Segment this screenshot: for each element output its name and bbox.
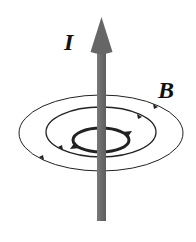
- magnetic-field-label: B: [158, 78, 174, 102]
- diagram-canvas: I B: [0, 0, 196, 242]
- wire-rod-front: [97, 100, 106, 221]
- current-arrowhead-icon: [91, 17, 113, 54]
- field-diagram-svg: [0, 0, 196, 242]
- current-label: I: [64, 30, 73, 54]
